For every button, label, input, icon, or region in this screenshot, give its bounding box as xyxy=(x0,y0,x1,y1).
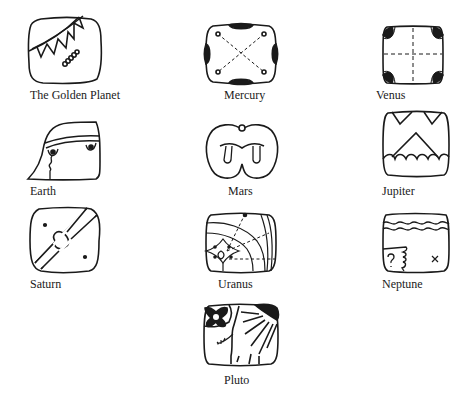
earth-glyph xyxy=(28,121,102,181)
glyph-label-mars: Mars xyxy=(228,184,253,198)
mars-glyph xyxy=(206,124,278,180)
pluto-glyph xyxy=(203,304,279,366)
jupiter-glyph xyxy=(382,111,450,179)
glyph-label-pluto: Pluto xyxy=(224,373,249,387)
glyph-label-earth: Earth xyxy=(30,184,56,198)
glyph-label-neptune: Neptune xyxy=(382,277,423,291)
glyph-label-golden-planet: The Golden Planet xyxy=(30,88,120,102)
mercury-glyph xyxy=(205,24,277,84)
golden-planet-glyph xyxy=(27,17,103,85)
saturn-glyph xyxy=(29,207,101,273)
glyph-label-saturn: Saturn xyxy=(30,277,61,291)
uranus-glyph xyxy=(205,213,277,273)
glyph-label-uranus: Uranus xyxy=(218,277,253,291)
glyph-label-mercury: Mercury xyxy=(224,88,265,102)
venus-glyph xyxy=(382,26,444,84)
glyph-label-venus: Venus xyxy=(376,88,405,102)
neptune-glyph xyxy=(382,213,450,273)
glyph-label-jupiter: Jupiter xyxy=(382,184,415,198)
